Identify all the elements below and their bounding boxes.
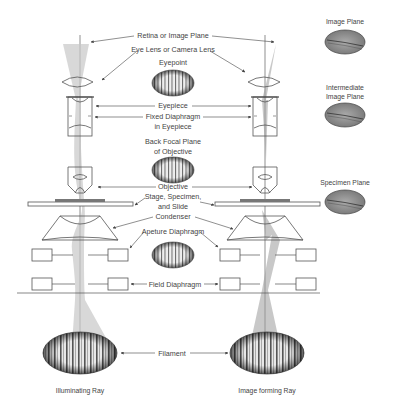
label-filament: Filament — [158, 349, 186, 358]
image-forming-beam — [250, 100, 280, 345]
right-light-path — [215, 35, 320, 345]
label-retina: Retina or Image Plane — [137, 31, 209, 40]
illuminating-beam — [72, 100, 110, 345]
slide-right — [240, 199, 290, 202]
stage-right — [215, 202, 320, 206]
left-light-path — [28, 35, 133, 345]
label-back-focal-plane-2: of Objective — [154, 147, 192, 156]
label-intermediate: Intermediate — [326, 84, 364, 91]
label-eyepiece: Eyepiece — [158, 101, 188, 110]
filament-image-right — [230, 332, 304, 374]
eyepoint-image — [152, 70, 194, 96]
image-plane-thumbnail — [325, 30, 365, 54]
field-diaphragm-right-b — [296, 278, 316, 290]
microscope-light-path-diagram: Retina or Image Plane Eye Lens or Camera… — [0, 0, 394, 419]
label-fixed-diaphragm-2: in Eyepiece — [154, 122, 191, 131]
label-illuminating-ray: Illuminating Ray — [56, 387, 105, 395]
label-condenser: Condenser — [155, 212, 191, 221]
aperture-diaphragm-right-a — [220, 249, 240, 261]
intermediate-image-plane-thumbnail — [325, 103, 365, 127]
label-image-forming-ray: Image forming Ray — [238, 387, 296, 395]
stage-left — [28, 202, 133, 206]
aperture-diaphragm-image — [152, 242, 194, 268]
label-eye-lens: Eye Lens or Camera Lens — [131, 45, 215, 54]
label-field-diaphragm: Field Diaphragm — [149, 280, 202, 289]
label-objective: Objective — [158, 182, 188, 191]
label-specimen-plane: Specimen Plane — [320, 179, 370, 187]
field-diaphragm-left-b — [108, 278, 128, 290]
slide-left — [55, 199, 105, 202]
label-back-focal-plane: Back Focal Plane — [145, 137, 201, 146]
back-focal-plane-image — [152, 157, 194, 183]
field-diaphragm-left-a — [32, 278, 52, 290]
label-image-plane: Image Plane — [326, 18, 364, 26]
aperture-diaphragm-left-b — [108, 249, 128, 261]
label-intermediate-2: Image Plane — [326, 93, 364, 101]
eye-lens-right — [248, 77, 280, 87]
label-eyepoint: Eyepoint — [159, 58, 187, 67]
bottom-labels: Illuminating Ray Image forming Ray — [56, 387, 296, 395]
label-stage: Stage, Specimen, — [145, 192, 202, 201]
aperture-diaphragm-left-a — [32, 249, 52, 261]
filament-image-left — [43, 332, 117, 374]
beam-cone-top-left — [63, 44, 89, 100]
specimen-plane-thumbnail — [325, 190, 365, 214]
label-aperture-diaphragm: Apeture Diaphragm — [142, 227, 204, 236]
field-diaphragm-right-a — [220, 278, 240, 290]
beam-top-right — [262, 44, 276, 100]
label-stage-2: and Slide — [158, 202, 188, 211]
label-fixed-diaphragm: Fixed Diaphragm — [146, 112, 201, 121]
aperture-diaphragm-right-b — [296, 249, 316, 261]
